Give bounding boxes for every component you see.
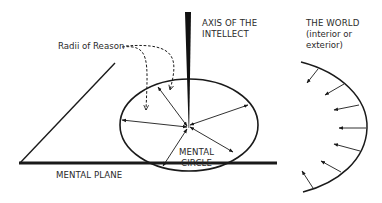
mental-plane [19,63,277,163]
world-label-line2: (interior or [306,29,359,40]
plane-left-edge [20,63,115,163]
world-label-line1: THE WORLD [306,18,359,29]
axis-label-line1: AXIS OF THE [202,18,257,29]
axis-of-intellect-spike [185,12,191,128]
axis-label-line2: INTELLECT [202,29,257,40]
world-arc [301,62,367,192]
world-boundary [301,62,367,192]
radius-arrow-upper-left [158,87,187,126]
radius-arrow-left [122,120,187,127]
world-label: THE WORLD (interior or exterior) [306,18,359,51]
mental-circle-label-line2: CIRCLE [179,158,214,169]
mental-circle-label-line1: MENTAL [179,147,214,158]
mental-plane-label: MENTAL PLANE [56,170,122,181]
dashed-pointer-left [122,47,147,110]
diagram-canvas: Radii of Reason AXIS OF THE INTELLECT TH… [0,0,382,203]
radii-of-reason-label: Radii of Reason [58,41,124,52]
world-label-line3: exterior) [306,40,359,51]
axis-label: AXIS OF THE INTELLECT [202,18,257,40]
radius-arrow-right [190,105,248,125]
dashed-pointer-right [126,45,174,90]
world-inward-arrows [302,69,366,188]
mental-circle-label: MENTAL CIRCLE [179,147,214,169]
